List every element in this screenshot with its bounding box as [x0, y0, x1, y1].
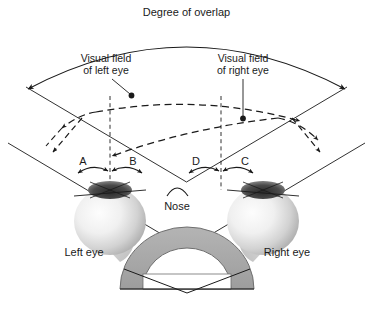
zone-D-label: D [192, 155, 200, 167]
zone-C-label: C [241, 155, 249, 167]
nose-arch [167, 188, 188, 196]
left-outer-dashed-arrow [53, 118, 82, 152]
left-temporal-boundary-dash [46, 128, 62, 146]
degree-of-overlap-arc [28, 47, 345, 89]
left-eye-visual-field-arc [96, 104, 300, 121]
zone-C-arc [223, 167, 253, 173]
diagram-canvas: Degree of overlap Visual field of left e… [0, 0, 373, 314]
zone-B-arc [112, 167, 142, 173]
right-outer-dashed-arrow [292, 118, 320, 152]
visual-field-overlap-diagram: Degree of overlap Visual field of left e… [0, 0, 373, 314]
right-eye-visual-field-arc [112, 118, 278, 156]
visual-field-left-pointer-dot [129, 93, 135, 99]
degree-of-overlap-label: Degree of overlap [143, 6, 230, 18]
visual-field-left-label-line1: Visual field [81, 52, 132, 64]
visual-field-right-label-line1: Visual field [218, 52, 269, 64]
zone-D-arc [189, 167, 219, 173]
left-eye-label: Left eye [64, 246, 103, 258]
visual-field-right-label-line2: of right eye [217, 64, 269, 76]
visual-field-left-leader [112, 79, 130, 94]
zone-A-arc [78, 167, 108, 173]
right-eye-visual-field-arc-tail [278, 118, 318, 140]
zone-B-label: B [129, 155, 136, 167]
zone-A-label: A [79, 155, 87, 167]
nose-label: Nose [164, 200, 190, 212]
visual-field-right-pointer-dot [240, 116, 246, 122]
right-eye-label: Right eye [264, 246, 310, 258]
visual-field-left-label-line2: of left eye [83, 64, 129, 76]
